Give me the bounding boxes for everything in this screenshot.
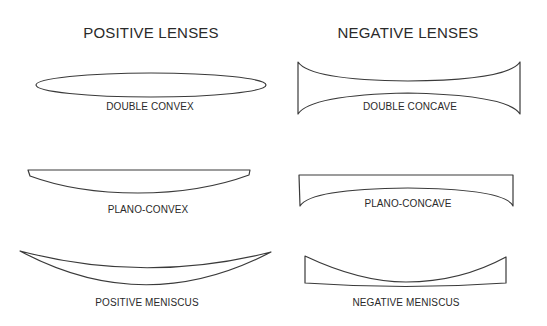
plano-convex-label: PLANO-CONVEX <box>108 204 189 215</box>
negative-meniscus-shape <box>305 256 506 287</box>
double-concave-lens: DOUBLE CONCAVE <box>298 62 520 114</box>
positive-meniscus-lens: POSITIVE MENISCUS <box>20 251 271 308</box>
plano-convex-shape <box>28 170 250 193</box>
negative-meniscus-label: NEGATIVE MENISCUS <box>352 297 459 308</box>
plano-concave-label: PLANO-CONCAVE <box>364 198 451 209</box>
double-convex-lens: DOUBLE CONVEX <box>36 73 266 112</box>
double-convex-shape <box>36 73 266 97</box>
positive-meniscus-shape <box>20 251 271 285</box>
plano-convex-lens: PLANO-CONVEX <box>28 170 250 215</box>
plano-concave-lens: PLANO-CONCAVE <box>299 175 513 209</box>
positive-lenses-heading: POSITIVE LENSES <box>83 24 219 41</box>
double-concave-label: DOUBLE CONCAVE <box>363 101 457 112</box>
double-convex-label: DOUBLE CONVEX <box>106 101 194 112</box>
positive-meniscus-label: POSITIVE MENISCUS <box>95 297 199 308</box>
negative-lenses-heading: NEGATIVE LENSES <box>337 24 478 41</box>
lens-types-diagram: POSITIVE LENSES NEGATIVE LENSES DOUBLE C… <box>0 0 547 326</box>
negative-meniscus-lens: NEGATIVE MENISCUS <box>305 256 506 308</box>
